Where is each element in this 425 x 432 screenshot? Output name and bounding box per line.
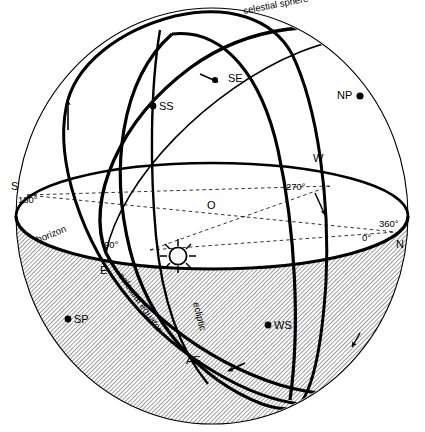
label-summer-solstice: SS (159, 100, 174, 112)
label-azimuth-360: 360° (379, 218, 399, 229)
north-pole-dot-icon (356, 92, 363, 99)
spring-equinox-dot-icon (212, 77, 218, 83)
label-spring-equinox: SE (228, 72, 243, 84)
label-azimuth-180: 180° (18, 194, 38, 205)
label-celestial-sphere: celestial sphere (242, 0, 309, 16)
label-azimuth-90: 90° (104, 239, 119, 250)
below-horizon-shaded-region (0, 0, 425, 432)
label-winter-solstice: WS (274, 319, 292, 331)
label-cardinal-north: N (396, 238, 404, 250)
label-cardinal-east: E (100, 264, 107, 276)
label-south-pole: SP (74, 313, 89, 325)
hatched-fill (0, 0, 425, 432)
celestial-sphere-drawing: celestial sphere horizon celestial equat… (0, 0, 425, 432)
label-cardinal-west: W (313, 152, 324, 164)
label-azimuth-0: 0° (362, 232, 371, 243)
celestial-equator-upper-arc (100, 28, 370, 253)
label-center-observer: O (207, 199, 216, 211)
label-autumn-equinox: AE (186, 354, 201, 366)
sun-disc (169, 247, 186, 264)
celestial-sphere-figure: celestial sphere horizon celestial equat… (0, 0, 425, 432)
label-azimuth-270: 270° (286, 181, 306, 192)
winter-solstice-dot-icon (265, 322, 272, 329)
label-cardinal-south: S (11, 180, 18, 192)
summer-solstice-dot-icon (150, 103, 157, 110)
south-pole-dot-icon (65, 316, 72, 323)
label-north-pole: NP (337, 89, 352, 101)
label-horizon: horizon (35, 223, 68, 245)
sun-icon (160, 239, 196, 273)
axis-line-east-west (150, 186, 330, 250)
horizon-circle (16, 163, 408, 269)
